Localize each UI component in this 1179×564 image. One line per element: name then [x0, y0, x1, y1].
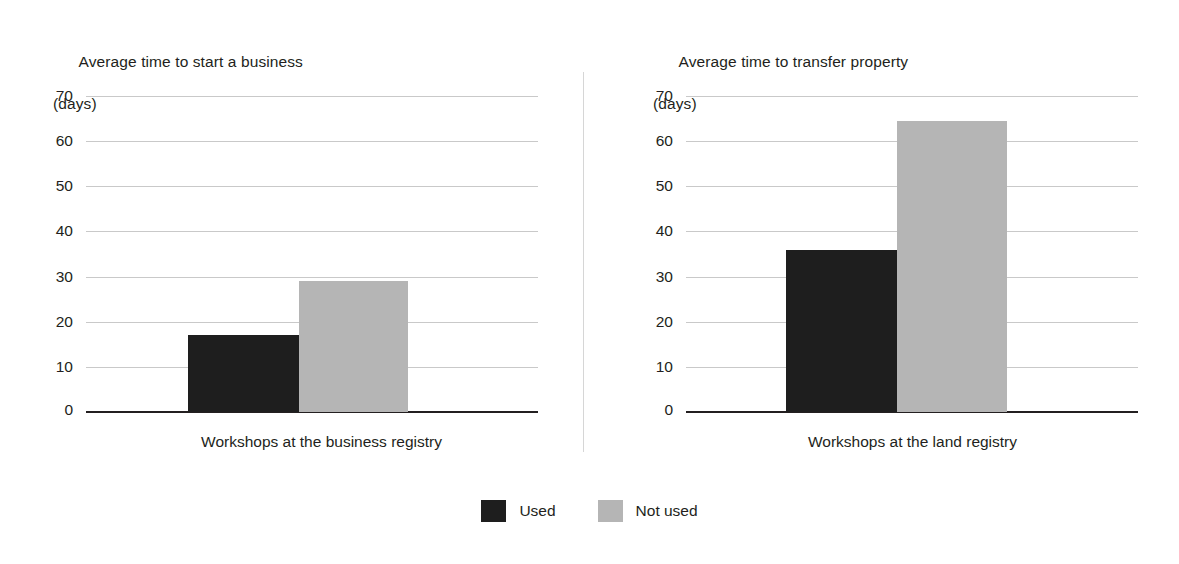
dual-bar-chart-figure: Average time to start a business (days) …: [0, 0, 1179, 564]
gridline-30-left: 30: [86, 277, 538, 278]
ytick-50-right: 50: [656, 177, 673, 195]
ytick-0-right: 0: [664, 401, 673, 419]
legend-item-used: Used: [481, 500, 555, 522]
gridline-50-left: 50: [86, 186, 538, 187]
ytick-10-left: 10: [56, 358, 73, 376]
chart-panel-land-registry: Average time to transfer property (days)…: [596, 0, 1179, 564]
legend-swatch-not-used-icon: [598, 500, 623, 522]
ytick-20-left: 20: [56, 313, 73, 331]
ytick-30-right: 30: [656, 268, 673, 286]
ytick-40-left: 40: [56, 222, 73, 240]
legend-label-not-used: Not used: [636, 502, 698, 520]
ytick-70-left: 70: [56, 87, 73, 105]
gridline-70-left: 70: [86, 96, 538, 97]
legend-label-used: Used: [519, 502, 555, 520]
panel-divider: [583, 72, 584, 452]
bar-not-used-business-registry: [299, 281, 408, 412]
ytick-10-right: 10: [656, 358, 673, 376]
bar-used-land-registry: [786, 250, 897, 413]
ytick-60-left: 60: [56, 132, 73, 150]
ytick-30-left: 30: [56, 268, 73, 286]
ytick-60-right: 60: [656, 132, 673, 150]
ytick-70-right: 70: [656, 87, 673, 105]
plot-area-left: 70 60 50 40 30 20 10 0: [86, 96, 538, 412]
legend-swatch-used-icon: [481, 500, 506, 522]
chart-legend: Used Not used: [0, 500, 1179, 522]
ytick-20-right: 20: [656, 313, 673, 331]
ytick-40-right: 40: [656, 222, 673, 240]
bar-not-used-land-registry: [897, 121, 1007, 412]
x-axis-label-right: Workshops at the land registry: [596, 433, 1179, 451]
ytick-0-left: 0: [64, 401, 73, 419]
gridline-60-left: 60: [86, 141, 538, 142]
panel-title-left-text: Average time to start a business: [79, 53, 303, 70]
legend-item-not-used: Not used: [598, 500, 698, 522]
panel-title-right-text: Average time to transfer property: [679, 53, 909, 70]
gridline-70-right: 70: [686, 96, 1138, 97]
bar-used-business-registry: [188, 335, 299, 412]
gridline-40-left: 40: [86, 231, 538, 232]
plot-area-right: 70 60 50 40 30 20 10 0: [686, 96, 1138, 412]
ytick-50-left: 50: [56, 177, 73, 195]
x-axis-label-left: Workshops at the business registry: [0, 433, 583, 451]
chart-panel-business-registry: Average time to start a business (days) …: [0, 0, 583, 564]
